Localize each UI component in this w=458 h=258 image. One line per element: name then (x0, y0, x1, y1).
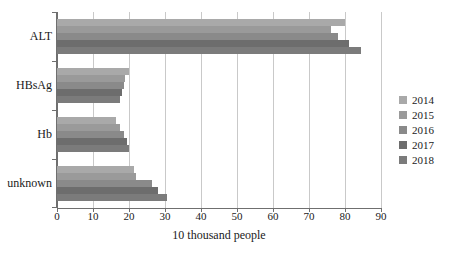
y-category-label-unknown: unknown (0, 177, 52, 190)
bar-hb-2018 (57, 145, 129, 152)
legend-label-2015: 2015 (412, 109, 434, 121)
y-category-label-alt: ALT (0, 30, 52, 43)
bar-group-unknown (57, 166, 381, 201)
x-tick-label-90: 90 (366, 210, 396, 222)
x-axis-title: 10 thousand people (57, 228, 381, 242)
bar-group-hb (57, 117, 381, 152)
legend-swatch-2018 (399, 156, 407, 164)
y-axis (56, 12, 57, 208)
legend-label-2018: 2018 (412, 154, 434, 166)
x-axis (57, 208, 381, 209)
x-tick-label-30: 30 (150, 210, 180, 222)
x-tick-label-80: 80 (330, 210, 360, 222)
bar-alt-2018 (57, 47, 361, 54)
legend-swatch-2016 (399, 126, 407, 134)
x-tick-label-0: 0 (42, 210, 72, 222)
bar-hb-2014 (57, 117, 116, 124)
legend-label-2017: 2017 (412, 139, 434, 151)
bar-hb-2015 (57, 124, 120, 131)
bar-unknown-2016 (57, 180, 152, 187)
legend-label-2016: 2016 (412, 124, 434, 136)
bar-alt-2017 (57, 40, 349, 47)
legend-swatch-2017 (399, 141, 407, 149)
y-category-label-hbsag: HBsAg (0, 79, 52, 92)
y-tick-2 (52, 110, 56, 111)
y-tick-1 (52, 61, 56, 62)
bar-hbsag-2015 (57, 75, 125, 82)
x-tick-label-10: 10 (78, 210, 108, 222)
bar-group-alt (57, 19, 381, 54)
y-tick-4 (52, 207, 56, 208)
bar-group-hbsag (57, 68, 381, 103)
bar-alt-2016 (57, 33, 338, 40)
bar-unknown-2017 (57, 187, 158, 194)
bar-alt-2015 (57, 26, 331, 33)
bar-hbsag-2017 (57, 89, 122, 96)
x-tick-label-20: 20 (114, 210, 144, 222)
gridline-90 (381, 12, 382, 208)
y-category-label-hb: Hb (0, 128, 52, 141)
legend-item-2014: 2014 (399, 92, 455, 107)
bar-unknown-2014 (57, 166, 134, 173)
legend-item-2017: 2017 (399, 137, 455, 152)
bar-unknown-2015 (57, 173, 136, 180)
y-category-labels: ALTHBsAgHbunknown (0, 12, 52, 208)
legend: 20142015201620172018 (399, 92, 455, 167)
x-tick-label-40: 40 (186, 210, 216, 222)
legend-item-2018: 2018 (399, 152, 455, 167)
bar-hbsag-2014 (57, 68, 129, 75)
legend-item-2016: 2016 (399, 122, 455, 137)
x-tick-label-70: 70 (294, 210, 324, 222)
bar-alt-2014 (57, 19, 345, 26)
plot-area (57, 12, 381, 208)
x-tick-label-50: 50 (222, 210, 252, 222)
legend-swatch-2015 (399, 111, 407, 119)
legend-swatch-2014 (399, 96, 407, 104)
bar-hbsag-2018 (57, 96, 120, 103)
bar-chart: 0102030405060708090 ALTHBsAgHbunknown 10… (0, 0, 458, 258)
legend-item-2015: 2015 (399, 107, 455, 122)
bar-unknown-2018 (57, 194, 167, 201)
y-tick-0 (52, 12, 56, 13)
y-tick-3 (52, 159, 56, 160)
x-tick-label-60: 60 (258, 210, 288, 222)
bar-hb-2016 (57, 131, 124, 138)
legend-label-2014: 2014 (412, 94, 434, 106)
bar-hb-2017 (57, 138, 127, 145)
bar-hbsag-2016 (57, 82, 124, 89)
